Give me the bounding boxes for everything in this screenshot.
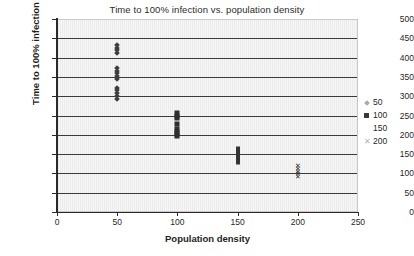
gridline	[58, 154, 357, 155]
y-tick-mark	[52, 77, 57, 78]
x-tick-mark	[177, 212, 178, 216]
x-tick-label: 250	[338, 217, 378, 227]
x-tick-mark	[238, 212, 239, 216]
x-tick-mark	[298, 212, 299, 216]
y-tick-label: 150	[370, 149, 414, 159]
x-axis-line	[56, 212, 359, 214]
chart-screenshot: Time to 100% infection vs. population de…	[0, 0, 414, 256]
legend-label: 100	[373, 109, 387, 122]
legend-label: 50	[373, 96, 382, 109]
x-tick-label: 100	[157, 217, 197, 227]
gridline	[58, 58, 357, 59]
y-tick-mark	[52, 135, 57, 136]
legend-label: 150	[373, 122, 387, 135]
legend-marker-none-icon	[364, 126, 370, 132]
data-point	[236, 159, 240, 164]
data-point	[175, 134, 180, 139]
legend-marker-diamond-icon	[364, 100, 370, 106]
data-point	[175, 121, 180, 126]
y-tick-mark	[52, 173, 57, 174]
y-tick-label: 50	[370, 188, 414, 198]
gridline	[58, 38, 357, 39]
legend-item[interactable]: 100	[364, 109, 410, 122]
x-tick-label: 200	[278, 217, 318, 227]
gridline	[58, 96, 357, 97]
gridline	[58, 173, 357, 174]
y-tick-mark	[52, 154, 57, 155]
gridline	[58, 116, 357, 117]
legend-label: 200	[373, 135, 387, 148]
data-point	[175, 115, 180, 120]
x-tick-mark	[117, 212, 118, 216]
gridline	[58, 135, 357, 136]
x-tick-mark	[57, 212, 58, 216]
y-tick-mark	[52, 116, 57, 117]
gridline	[58, 193, 357, 194]
y-tick-label: 500	[370, 14, 414, 24]
y-tick-label: 450	[370, 33, 414, 43]
y-tick-label: 400	[370, 53, 414, 63]
legend-item[interactable]: 50	[364, 96, 410, 109]
y-tick-mark	[52, 19, 57, 20]
legend-marker-square-icon	[364, 113, 369, 118]
x-tick-label: 0	[37, 217, 77, 227]
y-axis-title: Time to 100% infection	[30, 0, 41, 149]
legend-item[interactable]: 150	[364, 122, 410, 135]
y-tick-mark	[52, 38, 57, 39]
x-tick-mark	[358, 212, 359, 216]
y-tick-label: 100	[370, 168, 414, 178]
y-tick-mark	[52, 58, 57, 59]
data-point: ✕	[295, 173, 300, 178]
y-tick-label: 350	[370, 72, 414, 82]
chart-legend: 50100150✕200	[364, 96, 410, 148]
x-tick-label: 150	[218, 217, 258, 227]
legend-item[interactable]: ✕200	[364, 135, 410, 148]
x-axis-title: Population density	[57, 233, 358, 244]
y-tick-label: 0	[370, 207, 414, 217]
plot-area	[57, 19, 358, 212]
x-tick-label: 50	[97, 217, 137, 227]
gridline	[58, 77, 357, 78]
y-tick-mark	[52, 96, 57, 97]
chart-title: Time to 100% infection vs. population de…	[0, 4, 414, 15]
legend-marker-x-icon: ✕	[364, 139, 370, 145]
y-tick-mark	[52, 193, 57, 194]
